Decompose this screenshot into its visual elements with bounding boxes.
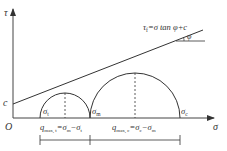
- q-max-c-label: qmax, c=σc−σm: [112, 122, 156, 134]
- sigma-c-label: σc: [181, 106, 188, 117]
- mohr-coulomb-diagram: τ σ O c φ τf=σ tan φ+c σt σm σc qmax, t=…: [0, 0, 227, 151]
- sigma-m-label: σm: [92, 106, 101, 117]
- tau-axis-label: τ: [4, 7, 8, 18]
- q-max-t-label: qmax, t=σm−σt: [40, 122, 83, 134]
- failure-envelope: [13, 30, 203, 104]
- origin-label: O: [5, 121, 12, 132]
- intercept-label: c: [3, 97, 8, 108]
- sigma-t-label: σt: [43, 106, 49, 117]
- large-mohr-circle: [90, 73, 180, 118]
- angle-arc: [184, 38, 185, 42]
- envelope-equation: τf=σ tan φ+c: [143, 22, 187, 33]
- angle-label: φ: [187, 32, 192, 41]
- envelope-rest: =σ tan φ+c: [148, 22, 187, 32]
- sigma-axis-label: σ: [213, 121, 219, 132]
